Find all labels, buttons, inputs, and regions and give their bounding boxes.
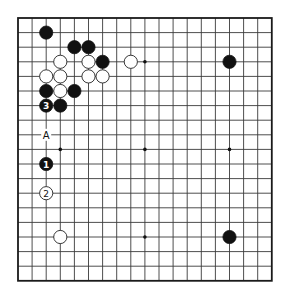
labels-layer: A xyxy=(41,129,51,141)
black-stone xyxy=(54,99,67,112)
point-label-A: A xyxy=(41,129,51,141)
star-point xyxy=(59,148,63,152)
star-point xyxy=(228,148,232,152)
star-point xyxy=(143,60,147,64)
white-stone xyxy=(54,230,67,243)
black-stone xyxy=(82,41,95,54)
label-text: A xyxy=(43,130,50,141)
white-stone xyxy=(54,70,67,83)
move-number: 3 xyxy=(43,101,49,111)
move-number: 2 xyxy=(43,189,49,199)
black-stone-move-3: 3 xyxy=(40,99,53,112)
white-stone xyxy=(54,55,67,68)
white-stone xyxy=(96,70,109,83)
move-number: 1 xyxy=(43,160,49,170)
black-stone xyxy=(223,55,236,68)
black-stone xyxy=(40,26,53,39)
black-stone xyxy=(40,84,53,97)
white-stone xyxy=(82,55,95,68)
white-stone xyxy=(82,70,95,83)
white-stone-move-2: 2 xyxy=(40,187,53,200)
white-stone xyxy=(54,84,67,97)
star-point xyxy=(143,235,147,239)
go-board: 312 A xyxy=(0,0,292,301)
black-stone xyxy=(96,55,109,68)
black-stone xyxy=(68,84,81,97)
black-stone xyxy=(68,41,81,54)
star-point xyxy=(143,148,147,152)
black-stone xyxy=(223,230,236,243)
white-stone xyxy=(40,70,53,83)
black-stone-move-1: 1 xyxy=(40,157,53,170)
white-stone xyxy=(124,55,137,68)
